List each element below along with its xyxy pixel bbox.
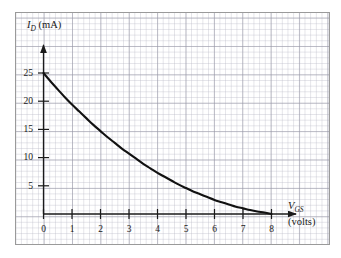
y-tick-label-25: 25: [11, 68, 33, 78]
jfet-transfer-characteristic-figure: ID (mA) VGS (volts) 25 20 15 10 5 0 1 2 …: [0, 0, 341, 258]
x-tick-label-0: 0: [37, 224, 51, 234]
y-axis-title: ID (mA): [27, 19, 61, 35]
y-axis-subscript: D: [31, 24, 36, 33]
x-tick-label-7: 7: [236, 224, 250, 234]
x-tick-label-6: 6: [208, 224, 222, 234]
x-tick-label-8: 8: [265, 224, 279, 234]
x-tick-label-3: 3: [122, 224, 136, 234]
y-tick-label-10: 10: [11, 152, 33, 162]
y-axis-units: (mA): [39, 19, 62, 30]
y-tick-label-20: 20: [11, 96, 33, 106]
x-tick-label-4: 4: [151, 224, 165, 234]
x-tick-label-1: 1: [65, 224, 79, 234]
y-tick-label-15: 15: [11, 124, 33, 134]
x-tick-label-2: 2: [94, 224, 108, 234]
x-tick-label-5: 5: [179, 224, 193, 234]
y-tick-label-5: 5: [11, 181, 33, 191]
x-axis-title: VGS (volts): [288, 200, 315, 227]
transfer-characteristic-curve: [44, 73, 272, 214]
x-axis-units: (volts): [288, 216, 315, 228]
x-axis-subscript: GS: [294, 205, 303, 214]
